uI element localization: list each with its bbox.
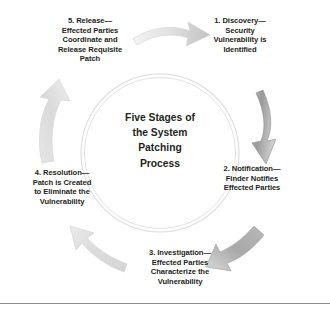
stage-4-line-3: Vulnerability (6, 197, 118, 207)
stage-1-line-3: Identified (192, 45, 288, 55)
stage-2-line-1: Finder Notifies (196, 174, 308, 184)
arrow-right (252, 90, 276, 164)
stage-3-heading: 3. Investigation— (120, 248, 240, 258)
stage-4-heading: 4. Resolution— (6, 168, 118, 178)
stage-4-line-2: to Eliminate the (6, 187, 118, 197)
stage-5-line-4: Patch (38, 54, 142, 64)
stage-label-discovery: 1. Discovery— Security Vulnerability is … (192, 16, 288, 54)
bottom-divider (0, 303, 330, 304)
stage-1-heading: 1. Discovery— (192, 16, 288, 26)
stage-label-investigation: 3. Investigation— Effected Parties Chara… (120, 248, 240, 286)
stage-2-heading: 2. Notification— (196, 164, 308, 174)
center-title: Five Stages of the System Patching Proce… (100, 110, 220, 171)
center-title-line-1: Five Stages of (100, 110, 220, 125)
stage-5-line-1: Effected Parties (38, 26, 142, 36)
arrow-left (39, 79, 70, 163)
center-title-line-2: the System (100, 125, 220, 140)
arrow-bottom-left (70, 226, 127, 272)
stage-label-resolution: 4. Resolution— Patch is Created to Elimi… (6, 168, 118, 206)
stage-label-release: 5. Release— Effected Parties Coordinate … (38, 16, 142, 64)
stage-4-line-1: Patch is Created (6, 178, 118, 188)
patching-process-diagram: Five Stages of the System Patching Proce… (0, 0, 330, 312)
stage-3-line-2: Characterize the (120, 267, 240, 277)
stage-2-line-2: Effected Parties (196, 183, 308, 193)
stage-1-line-2: Vulnerability is (192, 35, 288, 45)
stage-5-line-2: Coordinate and (38, 35, 142, 45)
stage-5-line-3: Release Requisite (38, 45, 142, 55)
stage-3-line-1: Effected Parties (120, 258, 240, 268)
stage-5-heading: 5. Release— (38, 16, 142, 26)
stage-label-notification: 2. Notification— Finder Notifies Effecte… (196, 164, 308, 193)
stage-1-line-1: Security (192, 26, 288, 36)
stage-3-line-3: Vulnerability (120, 277, 240, 287)
center-title-line-3: Patching (100, 140, 220, 155)
